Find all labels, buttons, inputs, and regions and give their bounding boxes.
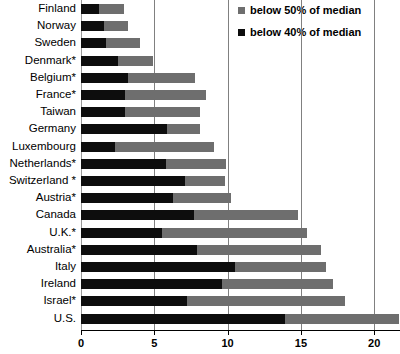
stacked-bar: [81, 228, 307, 238]
bar-row: U.S.: [81, 311, 400, 328]
x-axis-line: [81, 330, 400, 331]
stacked-bar: [81, 279, 333, 289]
stacked-bar: [81, 210, 298, 220]
x-tick-label-5: 5: [139, 337, 169, 349]
bar-segment-below-50: [194, 210, 298, 220]
bar-row: U.K.*: [81, 225, 400, 242]
x-tick-label-10: 10: [213, 337, 243, 349]
category-label: Canada: [0, 207, 76, 222]
bar-row: Denmark*: [81, 53, 400, 70]
bar-row: Austria*: [81, 190, 400, 207]
x-tick-label-0: 0: [66, 337, 96, 349]
x-tick-label-15: 15: [286, 337, 316, 349]
category-label: Denmark*: [0, 53, 76, 68]
bar-segment-below-50: [167, 124, 199, 134]
tick-0: [81, 330, 82, 335]
bar-row: Luxembourg: [81, 139, 400, 156]
bar-segment-below-40: [81, 21, 104, 31]
bar-segment-below-40: [81, 124, 167, 134]
category-label: Belgium*: [0, 70, 76, 85]
category-label: France*: [0, 87, 76, 102]
bar-segment-below-50: [104, 21, 127, 31]
bar-row: Taiwan: [81, 104, 400, 121]
bar-row: Finland: [81, 1, 400, 18]
stacked-bar: [81, 21, 128, 31]
category-label: Ireland: [0, 276, 76, 291]
bar-row: Sweden: [81, 35, 400, 52]
bar-segment-below-40: [81, 314, 285, 324]
bar-row: Ireland: [81, 276, 400, 293]
category-label: Netherlands*: [0, 156, 76, 171]
bar-segment-below-50: [187, 296, 345, 306]
x-tick-label-20: 20: [359, 337, 389, 349]
stacked-bar: [81, 176, 225, 186]
category-label: Israel*: [0, 293, 76, 308]
category-label: Germany: [0, 121, 76, 136]
bar-segment-below-50: [125, 107, 200, 117]
bar-row: Germany: [81, 121, 400, 138]
category-label: Finland: [0, 1, 76, 16]
bar-row: Canada: [81, 207, 400, 224]
category-label: U.K.*: [0, 225, 76, 240]
bar-segment-below-40: [81, 193, 173, 203]
bar-segment-below-50: [197, 245, 322, 255]
stacked-bar: [81, 245, 321, 255]
tick-15: [301, 330, 302, 335]
category-label: Sweden: [0, 35, 76, 50]
bar-segment-below-40: [81, 56, 118, 66]
bar-segment-below-50: [115, 142, 215, 152]
stacked-bar: [81, 296, 345, 306]
bar-segment-below-50: [166, 159, 226, 169]
stacked-bar: [81, 193, 231, 203]
stacked-bar: [81, 73, 195, 83]
bar-row: Netherlands*: [81, 156, 400, 173]
bar-segment-below-50: [106, 38, 140, 48]
bar-segment-below-50: [185, 176, 225, 186]
bar-segment-below-40: [81, 142, 115, 152]
bar-segment-below-50: [99, 4, 124, 14]
bar-segment-below-40: [81, 38, 106, 48]
bar-row: Israel*: [81, 293, 400, 310]
bar-row: France*: [81, 87, 400, 104]
bar-segment-below-40: [81, 159, 166, 169]
tick-10: [228, 330, 229, 335]
bar-segment-below-50: [173, 193, 230, 203]
stacked-bar: [81, 124, 200, 134]
bar-segment-below-40: [81, 279, 222, 289]
bar-row: Italy: [81, 259, 400, 276]
bar-segment-below-50: [118, 56, 153, 66]
category-label: U.S.: [0, 311, 76, 326]
chart-container: below 50% of median below 40% of median …: [0, 0, 400, 354]
bar-row: Norway: [81, 18, 400, 35]
category-label: Australia*: [0, 242, 76, 257]
category-label: Italy: [0, 259, 76, 274]
tick-20: [374, 330, 375, 335]
stacked-bar: [81, 159, 226, 169]
bar-segment-below-40: [81, 107, 125, 117]
bar-row: Switzerland *: [81, 173, 400, 190]
stacked-bar: [81, 4, 124, 14]
stacked-bar: [81, 142, 214, 152]
bar-segment-below-40: [81, 4, 99, 14]
bar-segment-below-40: [81, 228, 162, 238]
bar-row: Australia*: [81, 242, 400, 259]
bar-segment-below-40: [81, 176, 185, 186]
bar-segment-below-40: [81, 90, 125, 100]
stacked-bar: [81, 107, 200, 117]
category-label: Austria*: [0, 190, 76, 205]
category-label: Norway: [0, 18, 76, 33]
bar-row: Belgium*: [81, 70, 400, 87]
bar-segment-below-50: [222, 279, 333, 289]
bar-segment-below-40: [81, 210, 194, 220]
bar-segment-below-50: [125, 90, 206, 100]
bar-segment-below-40: [81, 262, 235, 272]
bar-segment-below-50: [285, 314, 399, 324]
category-label: Switzerland *: [0, 173, 76, 188]
bar-segment-below-40: [81, 73, 128, 83]
stacked-bar: [81, 314, 399, 324]
bar-segment-below-40: [81, 245, 197, 255]
category-label: Luxembourg: [0, 139, 76, 154]
bar-segment-below-50: [128, 73, 195, 83]
bar-segment-below-50: [235, 262, 326, 272]
bar-segment-below-40: [81, 296, 187, 306]
